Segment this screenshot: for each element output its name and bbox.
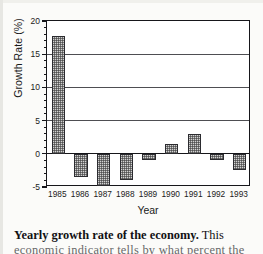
bar-1990 [165,144,179,154]
bar-1993 [233,154,247,171]
x-tick-label: 1993 [229,190,247,198]
caption-second-line: economic indicator tells by what percent… [14,243,257,254]
y-tick-label: 10 [14,83,40,92]
plot-area: 20151050-5 [46,20,250,186]
x-axis-title: Year [46,204,250,216]
y-tick-label: -5 [14,183,40,192]
y-tick-label: 0 [14,150,40,159]
y-tick-major [42,186,47,187]
bars-layer [47,21,249,185]
bar-1986 [74,154,88,177]
x-tick-label: 1988 [116,190,134,198]
y-tick-label: 5 [14,116,40,125]
figure: Growth Rate (%) 20151050-5 1985198619871… [0,0,263,254]
x-tick-label: 1985 [48,190,66,198]
bar-1992 [210,154,224,161]
x-tick-label: 1991 [184,190,202,198]
x-tick-label: 1990 [161,190,179,198]
bar-1988 [120,154,134,181]
bar-1987 [97,154,111,186]
caption-rest: This [199,228,224,242]
bar-chart: Growth Rate (%) 20151050-5 1985198619871… [0,0,263,214]
y-tick-label: 15 [14,50,40,59]
bar-1989 [142,154,156,161]
bar-1991 [188,134,202,154]
x-tick-label: 1989 [139,190,157,198]
figure-caption: Yearly growth rate of the economy. This [14,228,254,243]
x-tick-label: 1992 [207,190,225,198]
x-tick-label: 1986 [71,190,89,198]
bar-1985 [52,36,66,154]
x-tick-label: 1987 [93,190,111,198]
y-tick-label: 20 [14,17,40,26]
caption-lead: Yearly growth rate of the economy. [14,228,199,242]
